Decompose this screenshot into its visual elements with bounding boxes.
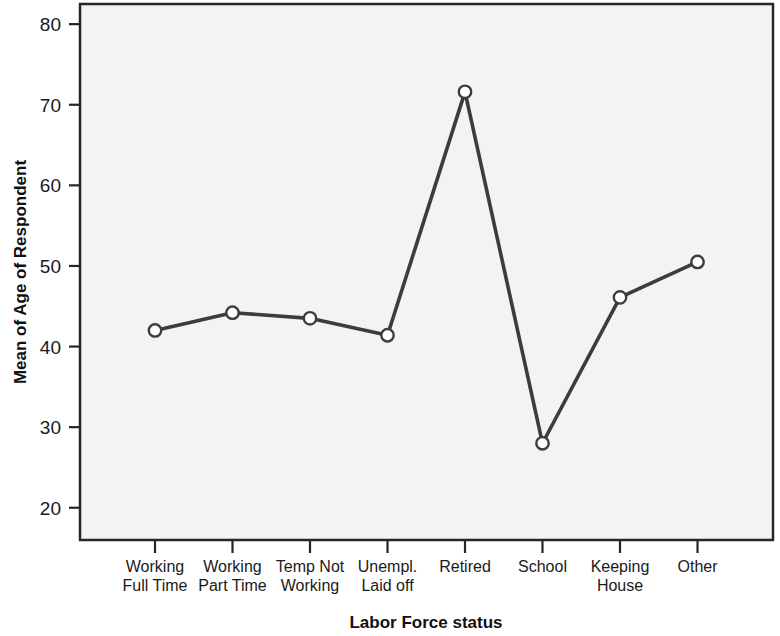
x-axis-category-label: Unempl.Laid off xyxy=(358,558,418,594)
data-point-marker xyxy=(691,256,703,268)
y-axis-tick-label: 70 xyxy=(40,95,61,116)
x-axis-category-label: School xyxy=(518,558,567,575)
x-axis-category-label: KeepingHouse xyxy=(591,558,650,594)
data-point-marker xyxy=(614,291,626,303)
y-axis-tick-label: 80 xyxy=(40,14,61,35)
x-axis-category-label: Other xyxy=(677,558,718,575)
y-axis-title: Mean of Age of Respondent xyxy=(11,160,30,384)
y-axis: 80706050403020 xyxy=(40,14,80,519)
x-axis-title: Labor Force status xyxy=(349,613,502,632)
y-axis-tick-label: 30 xyxy=(40,417,61,438)
data-point-marker xyxy=(304,312,316,324)
chart-figure: 80706050403020 WorkingFull TimeWorkingPa… xyxy=(0,0,780,636)
data-point-marker xyxy=(381,329,393,341)
x-axis-category-label: Temp NotWorking xyxy=(276,558,345,594)
data-point-marker xyxy=(226,307,238,319)
x-axis-category-label: WorkingPart Time xyxy=(198,558,267,594)
y-axis-tick-label: 60 xyxy=(40,175,61,196)
line-chart: 80706050403020 WorkingFull TimeWorkingPa… xyxy=(0,0,780,636)
y-axis-tick-label: 40 xyxy=(40,337,61,358)
x-axis-category-label: Retired xyxy=(439,558,491,575)
y-axis-tick-label: 50 xyxy=(40,256,61,277)
data-point-marker xyxy=(149,324,161,336)
data-point-marker xyxy=(459,86,471,98)
x-axis: WorkingFull TimeWorkingPart TimeTemp Not… xyxy=(123,540,719,594)
plot-area-background xyxy=(80,4,773,540)
data-point-marker xyxy=(536,437,548,449)
y-axis-tick-label: 20 xyxy=(40,498,61,519)
x-axis-category-label: WorkingFull Time xyxy=(123,558,188,594)
